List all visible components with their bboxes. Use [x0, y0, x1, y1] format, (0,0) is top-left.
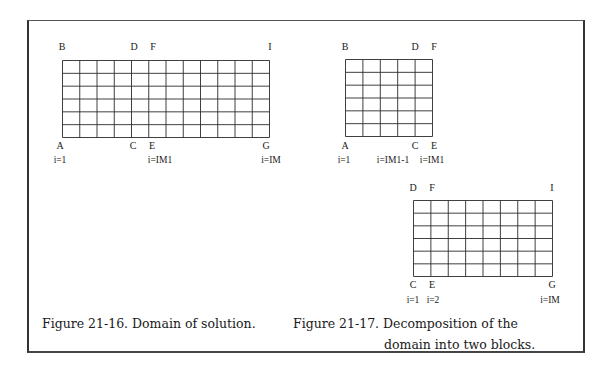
corner-label-d: D	[130, 42, 137, 52]
mesh-lines	[62, 60, 270, 138]
mesh-lines	[413, 200, 553, 277]
corner-label-c: C	[130, 141, 137, 151]
index-label: i=IM1	[148, 155, 172, 165]
caption-figure-21-16: Figure 21-16. Domain of solution.	[42, 313, 256, 334]
corner-label-e: E	[431, 141, 437, 151]
caption-figure-21-17: Figure 21-17. Decomposition of the domai…	[293, 313, 535, 355]
index-label: i=2	[427, 295, 440, 305]
index-label: i=IM	[540, 295, 560, 305]
corner-label-i: I	[550, 183, 553, 193]
corner-label-b: B	[59, 42, 66, 52]
corner-label-d: D	[409, 183, 416, 193]
caption-figure-21-17-line1: Figure 21-17. Decomposition of the	[293, 316, 518, 331]
index-label: i=1	[54, 155, 67, 165]
index-label: i=1	[407, 295, 420, 305]
corner-label-d: D	[411, 42, 418, 52]
corner-label-g: G	[548, 280, 555, 290]
corner-label-a: A	[56, 141, 63, 151]
corner-label-b: B	[342, 42, 349, 52]
corner-label-i: I	[268, 42, 271, 52]
corner-label-e: E	[149, 141, 155, 151]
corner-label-g: G	[262, 141, 269, 151]
corner-label-e: E	[429, 280, 435, 290]
grid-block-2	[413, 200, 553, 277]
corner-label-c: C	[410, 280, 417, 290]
index-label: i=1	[338, 155, 351, 165]
corner-label-a: A	[341, 141, 348, 151]
index-label: i=IM1-1	[377, 155, 409, 165]
index-label: i=IM	[261, 155, 281, 165]
corner-label-f: F	[429, 183, 435, 193]
corner-label-f: F	[431, 42, 437, 52]
grid-block-1	[345, 59, 433, 137]
grid-domain-of-solution	[62, 60, 270, 138]
corner-label-f: F	[150, 42, 156, 52]
caption-figure-21-17-line2: domain into two blocks.	[293, 334, 535, 355]
corner-label-c: C	[412, 141, 419, 151]
mesh-lines	[345, 59, 433, 137]
index-label: i=IM1	[420, 155, 444, 165]
